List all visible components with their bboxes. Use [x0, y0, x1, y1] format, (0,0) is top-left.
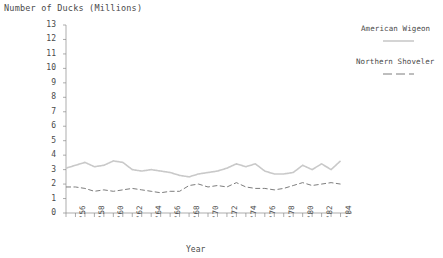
y-tick-label: 11 [36, 49, 56, 58]
x-tick-label: '64 [154, 205, 163, 219]
legend-item-northern-shoveler: Northern Shoveler [356, 57, 434, 66]
x-tick-label: '68 [192, 205, 201, 219]
y-tick-label: 3 [36, 165, 56, 174]
x-tick-label: '62 [135, 205, 144, 219]
y-axis-ticks [63, 25, 66, 213]
x-axis-ticks [66, 213, 341, 217]
x-tick-label: '76 [268, 205, 277, 219]
x-axis-label: Year [186, 245, 205, 254]
x-tick-label: '80 [306, 205, 315, 219]
x-tick-label: '70 [211, 205, 220, 219]
y-tick-label: 7 [36, 107, 56, 116]
y-tick-label: 0 [36, 208, 56, 217]
y-tick-label: 12 [36, 34, 56, 43]
legend-item-american-wigeon: American Wigeon [361, 24, 430, 33]
y-tick-label: 8 [36, 92, 56, 101]
x-tick-label: '60 [116, 205, 125, 219]
x-tick-label: '78 [287, 205, 296, 219]
y-tick-label: 1 [36, 194, 56, 203]
series-line [66, 161, 341, 177]
x-tick-label: '82 [325, 205, 334, 219]
y-tick-label: 6 [36, 121, 56, 130]
y-tick-label: 10 [36, 63, 56, 72]
y-tick-label: 2 [36, 179, 56, 188]
y-tick-label: 13 [36, 20, 56, 29]
y-tick-label: 5 [36, 136, 56, 145]
duck-population-chart: Number of Ducks (Millions) 1312111098765… [0, 0, 443, 258]
x-tick-label: '72 [230, 205, 239, 219]
x-tick-label: '56 [78, 205, 87, 219]
y-tick-label: 9 [36, 78, 56, 87]
x-tick-label: '66 [173, 205, 182, 219]
series-line [66, 183, 341, 193]
data-series [66, 161, 341, 193]
x-tick-label: '74 [249, 205, 258, 219]
plot-area [0, 0, 443, 258]
x-tick-label: '84 [344, 205, 353, 219]
y-tick-label: 4 [36, 150, 56, 159]
x-tick-label: '58 [97, 205, 106, 219]
